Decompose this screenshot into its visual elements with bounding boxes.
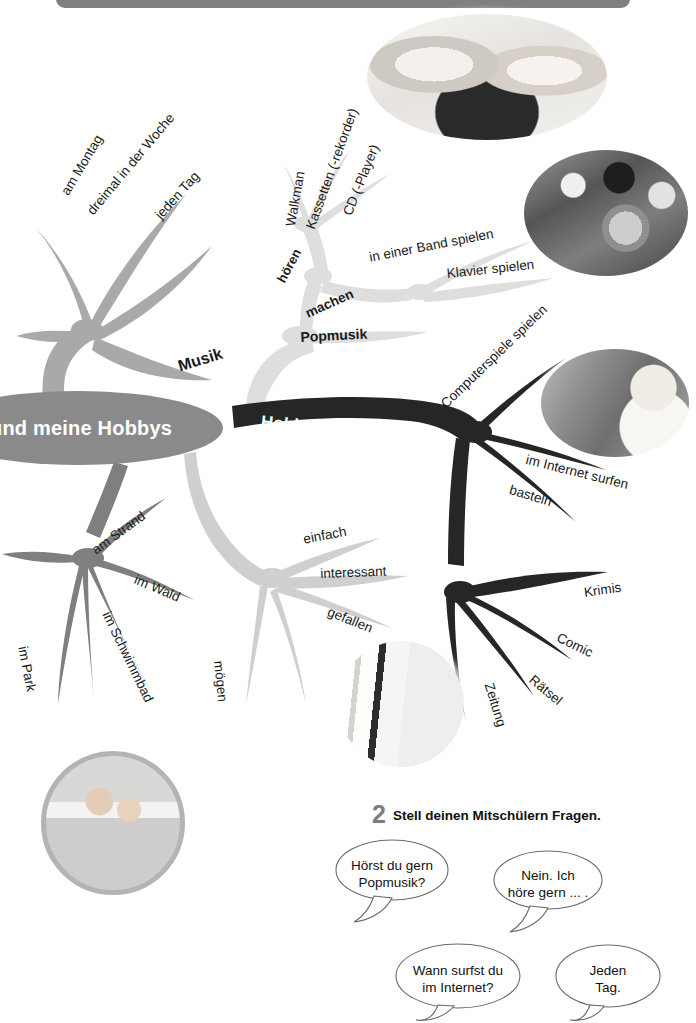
- bubble-line: Tag.: [558, 979, 658, 996]
- bubble-line: Hörst du gern: [342, 857, 442, 874]
- bubble-line: Jeden: [558, 962, 658, 979]
- bubble-line: im Internet?: [398, 979, 518, 996]
- bubble-line: Nein. Ich: [498, 867, 598, 884]
- band-playing-photo: [524, 150, 688, 276]
- newspaper-glasses-photo: [338, 641, 464, 767]
- bubble-line: Popmusik?: [342, 874, 442, 891]
- bubble-question-2-text: Wann surfst du im Internet?: [398, 962, 518, 996]
- bubble-answer-1-text: Nein. Ich höre gern ... .: [498, 867, 598, 901]
- exercise-title: Stell deinen Mitschülern Fragen.: [393, 808, 601, 823]
- girls-listening-music-photo: [367, 14, 607, 140]
- bubble-question-2-tail: [416, 1005, 454, 1020]
- mindmap-page: Wann? am Montag dreimal in der Woche jed…: [0, 0, 696, 1023]
- bubble-answer-2-tail: [570, 1005, 604, 1020]
- boy-at-computer-photo: [541, 349, 689, 457]
- bubble-answer-2-text: Jeden Tag.: [558, 962, 658, 996]
- bubble-line: höre gern ... .: [498, 884, 598, 901]
- exercise-number: 2: [372, 800, 386, 829]
- bubble-answer-1-tail: [510, 906, 548, 932]
- center-node-label: und meine Hobbys: [0, 417, 172, 440]
- bubble-question-1-text: Hörst du gern Popmusik?: [342, 857, 442, 891]
- bubble-question-1-tail: [354, 896, 392, 922]
- leaf-interessant: interessant: [320, 564, 387, 581]
- bubble-line: Wann surfst du: [398, 962, 518, 979]
- children-at-beach-photo: [41, 751, 185, 895]
